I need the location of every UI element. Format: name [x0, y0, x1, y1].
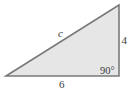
horizontal-side-label: 6: [59, 78, 65, 90]
hypotenuse-label: c: [58, 27, 63, 39]
right-angle-label: 90°: [100, 65, 115, 76]
vertical-side-label: 4: [122, 34, 128, 46]
triangle-diagram: c 4 6 90°: [0, 0, 129, 96]
